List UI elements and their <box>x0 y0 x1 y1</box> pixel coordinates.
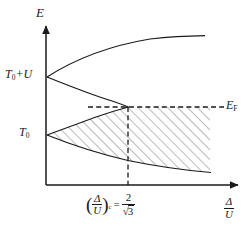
figure-container: E T0+U T0 EF Δ U ( Δ U )c= 2 √3 <box>0 0 251 228</box>
critical-ratio-expression: ( Δ U )c= 2 √3 <box>86 192 135 217</box>
lower-band-vertex-label-subscript: 0 <box>26 131 30 140</box>
critical-value-fraction: 2 √3 <box>122 192 136 217</box>
x-axis-label-denominator: U <box>225 208 233 220</box>
fermi-level-label: EF <box>226 99 237 113</box>
x-axis-label: Δ U <box>224 196 234 220</box>
critical-value-numerator: 2 <box>126 191 132 203</box>
x-axis-label-fraction: Δ U <box>224 196 234 220</box>
critical-equals-sign: = <box>112 199 122 210</box>
x-axis-label-numerator: Δ <box>226 195 232 207</box>
upper-band-upper-edge-curve <box>47 36 205 77</box>
lower-band-vertex-label: T0 <box>19 126 29 140</box>
critical-ratio-denominator: U <box>93 204 101 216</box>
upper-band-vertex-label: T0+U <box>5 68 32 82</box>
lower-band-vertex-label-main: T <box>19 125 26 139</box>
critical-value-radicand: 3 <box>128 205 135 218</box>
fermi-level-label-subscript: F <box>233 104 237 113</box>
upper-band-vertex-label-tail: +U <box>15 67 32 81</box>
critical-ratio-numerator: Δ <box>94 192 100 204</box>
upper-band-vertex-label-main: T <box>5 67 12 81</box>
critical-value-sqrt: √3 <box>123 205 135 218</box>
y-axis-label: E <box>36 6 44 19</box>
upper-band-lower-edge-curve <box>47 77 129 107</box>
critical-ratio-fraction: Δ U <box>92 193 102 217</box>
